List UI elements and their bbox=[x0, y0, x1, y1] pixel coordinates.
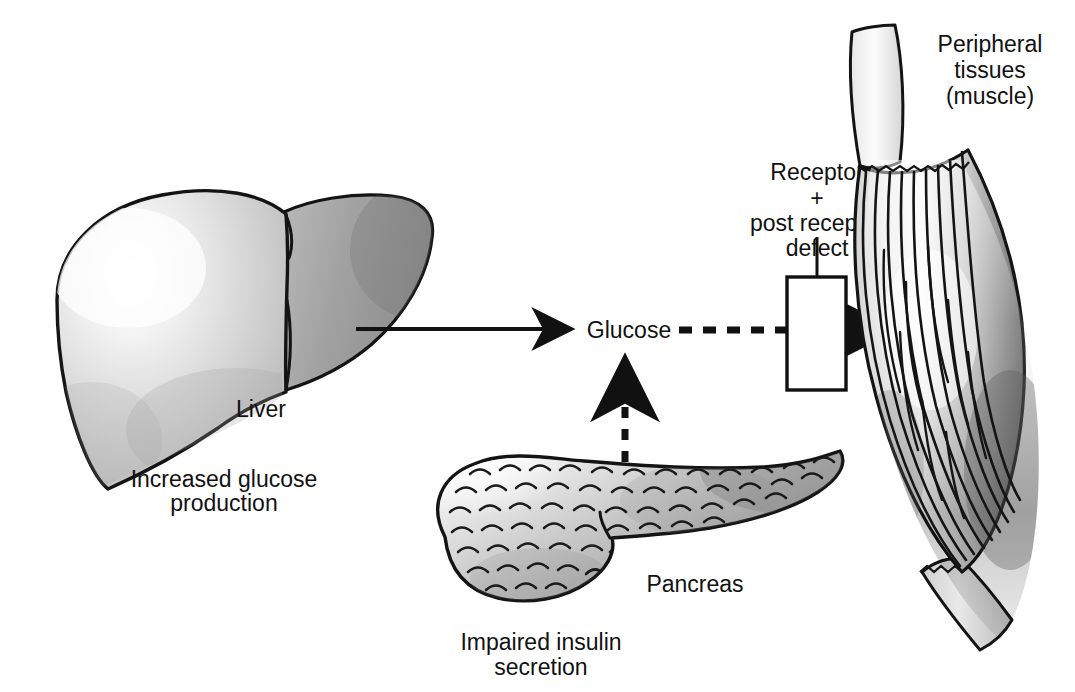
receptor-box bbox=[787, 277, 846, 390]
receptor-label-line1: Receptor bbox=[770, 159, 864, 185]
diagram-svg: Liver Increased glucose production Gluco… bbox=[0, 0, 1075, 692]
muscle-label-line3: (muscle) bbox=[946, 83, 1034, 109]
pancreas-label: Pancreas bbox=[646, 571, 743, 597]
glucose-label: Glucose bbox=[587, 317, 671, 343]
muscle-label-line1: Peripheral bbox=[938, 31, 1043, 57]
muscle-illustration bbox=[840, 25, 1060, 660]
liver-label: Liver bbox=[236, 396, 286, 422]
muscle-upper-tendon bbox=[850, 25, 902, 168]
pancreas-caption-line1: Impaired insulin bbox=[460, 629, 621, 655]
figure-canvas: Liver Increased glucose production Gluco… bbox=[0, 0, 1075, 692]
liver-caption-line2: production bbox=[170, 490, 277, 516]
muscle-label-line2: tissues bbox=[954, 57, 1026, 83]
pancreas-caption-line2: secretion bbox=[494, 654, 587, 680]
receptor-label-line4: defect bbox=[786, 235, 849, 261]
liver-right-shading bbox=[350, 180, 490, 320]
receptor-label-line2: + bbox=[810, 185, 823, 211]
liver-illustration bbox=[22, 180, 490, 498]
liver-caption-line1: Increased glucose bbox=[131, 466, 318, 492]
